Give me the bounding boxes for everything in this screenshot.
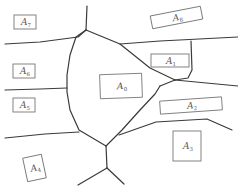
- region-subscript: 7: [28, 22, 32, 28]
- region-label-a4: A4: [23, 154, 47, 181]
- region-label-a3: A3: [173, 131, 201, 161]
- region-label-a2: A2: [160, 97, 223, 114]
- region-subscript: 3: [190, 146, 194, 152]
- region-label-a1: A1: [151, 54, 189, 67]
- region-label-a0: A0: [100, 73, 143, 98]
- region-labels: A0A1A2A3A4A5A6A7A8: [0, 0, 238, 195]
- region-label-a7: A7: [14, 15, 36, 29]
- region-subscript: 6: [27, 71, 31, 77]
- region-subscript: 1: [173, 61, 177, 67]
- region-subscript: 2: [193, 105, 197, 111]
- footer-caption: [0, 189, 238, 195]
- region-diagram: A0A1A2A3A4A5A6A7A8: [0, 0, 238, 195]
- region-subscript: 5: [27, 105, 31, 111]
- region-label-a6: A6: [13, 64, 35, 78]
- region-label-a5: A5: [13, 98, 35, 112]
- region-label-a8: A8: [150, 6, 203, 28]
